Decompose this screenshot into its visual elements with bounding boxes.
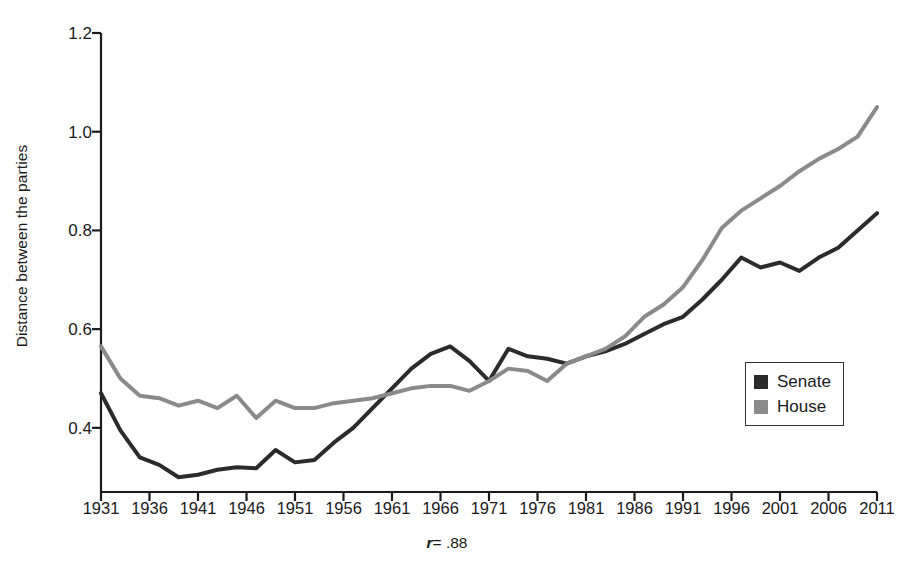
x-axis-tick-labels: 1931193619411946195119561961196619711976… [0, 500, 894, 530]
series-line-senate [101, 213, 877, 477]
y-axis-tick-labels: 0.40.60.81.01.2 [36, 0, 92, 520]
legend-swatch-house [754, 400, 768, 414]
legend-label-house: House [777, 398, 826, 415]
legend-item-house: House [754, 394, 831, 419]
x-tick-label: 2011 [849, 500, 899, 517]
legend-label-senate: Senate [777, 373, 831, 390]
y-axis-ticks [92, 33, 101, 428]
correlation-value: = .88 [433, 534, 468, 551]
chart-legend: Senate House [745, 362, 844, 426]
y-tick-label: 0.8 [46, 222, 92, 239]
y-axis-title: Distance between the parties [4, 0, 40, 492]
y-tick-label: 0.6 [46, 321, 92, 338]
plot-area [92, 14, 882, 504]
y-tick-label: 0.4 [46, 420, 92, 437]
legend-item-senate: Senate [754, 369, 831, 394]
y-axis-title-text: Distance between the parties [13, 145, 31, 348]
y-tick-label: 1.0 [46, 124, 92, 141]
legend-swatch-senate [754, 375, 768, 389]
correlation-annotation: r= .88 [0, 534, 894, 552]
y-tick-label: 1.2 [46, 25, 92, 42]
plot-svg [92, 14, 882, 504]
